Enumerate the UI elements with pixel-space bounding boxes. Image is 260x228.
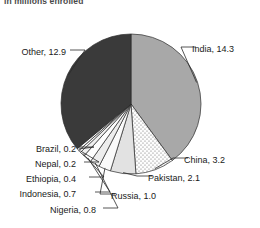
slice-label-china: China, 3.2 <box>184 155 225 165</box>
slice-label-brazil: Brazil, 0.2 <box>36 144 76 154</box>
slice-label-pakistan: Pakistan, 2.1 <box>148 173 200 183</box>
slice-label-indonesia: Indonesia, 0.7 <box>19 189 76 199</box>
slice-label-ethiopia: Ethiopia, 0.4 <box>26 174 76 184</box>
pie-chart-svg: India, 14.3 China, 3.2 Pakistan, 2.1 Rus… <box>0 0 260 228</box>
slice-label-other: Other, 12.9 <box>21 47 66 57</box>
slice-label-nigeria: Nigeria, 0.8 <box>50 205 96 215</box>
slice-label-india: India, 14.3 <box>192 44 234 54</box>
slice-label-nepal: Nepal, 0.2 <box>35 159 76 169</box>
slice-label-russia: Russia, 1.0 <box>111 191 156 201</box>
pie-chart-figure: in millions enrolled India, 14.3 China, … <box>0 0 260 228</box>
